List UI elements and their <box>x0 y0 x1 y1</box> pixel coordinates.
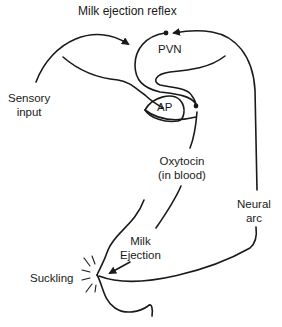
ap-label: AP <box>157 100 172 114</box>
milk-ejection-arrow <box>110 262 130 273</box>
neural-arc-label: Neural arc <box>237 197 271 225</box>
neural-label-line1: Neural <box>237 197 271 211</box>
brain-contour-left <box>63 57 163 108</box>
diagram-title: Milk ejection reflex <box>78 4 177 18</box>
oxytocin-label-line1: Oxytocin <box>158 154 206 168</box>
sensory-label-line2: input <box>8 105 50 119</box>
pvn-neuron-dot <box>164 31 169 36</box>
suckling-rays <box>82 256 96 292</box>
pituitary-terminal-dot <box>194 104 199 109</box>
sensory-input-arrow <box>36 35 128 82</box>
sensory-input-label: Sensory input <box>8 91 50 119</box>
milk-ejection-label: Milk Ejection <box>120 234 161 262</box>
sensory-label-line1: Sensory <box>8 91 50 105</box>
oxytocin-label-line2: (in blood) <box>158 168 206 182</box>
oxytocin-label: Oxytocin (in blood) <box>158 154 206 182</box>
neural-label-line2: arc <box>237 211 271 225</box>
pvn-label: PVN <box>158 42 182 56</box>
milk-label-line1: Milk <box>120 234 161 248</box>
milk-label-line2: Ejection <box>120 248 161 262</box>
suckling-label: Suckling <box>30 271 73 285</box>
oxytocin-line-lower <box>156 186 181 228</box>
